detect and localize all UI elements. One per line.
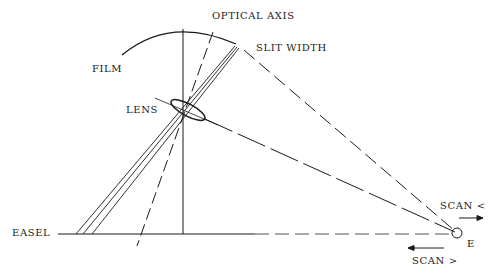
- scan-right-label: SCAN >: [412, 255, 458, 266]
- scan-left-label: SCAN <: [440, 200, 486, 211]
- optical-scan-diagram: OPTICAL AXIS SLIT WIDTH FILM LENS EASEL …: [0, 0, 499, 273]
- lens-shape: [168, 96, 207, 124]
- e-point-circle: [452, 228, 462, 238]
- film-label: FILM: [92, 63, 122, 74]
- slit-width-label: SLIT WIDTH: [256, 42, 327, 53]
- slit-to-e-dashed: [244, 50, 455, 231]
- film-arc: [122, 32, 236, 55]
- e-point-label: E: [467, 238, 475, 249]
- optical-axis-label: OPTICAL AXIS: [212, 10, 295, 21]
- dashed-ray: [137, 32, 213, 246]
- diagram-drawing: [0, 0, 499, 273]
- lens-to-e-line: [205, 119, 455, 232]
- easel-label: EASEL: [12, 227, 50, 238]
- lens-label: LENS: [126, 104, 158, 115]
